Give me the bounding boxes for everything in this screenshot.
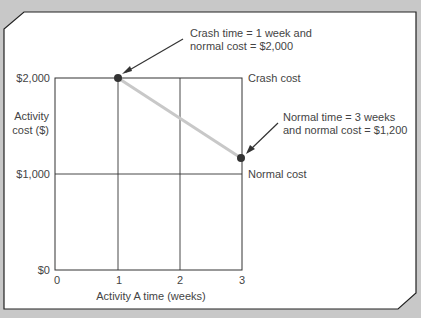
x-tick-1: 1 xyxy=(116,274,122,286)
y-axis-label-line1: Activity xyxy=(14,110,49,122)
x-tick-2: 2 xyxy=(177,274,183,286)
chart-canvas: $2,000 $1,000 $0 Activity cost ($) 0 1 2… xyxy=(0,0,421,318)
normal-annotation-line1: Normal time = 3 weeks xyxy=(283,111,396,123)
crash-annotation-line2: normal cost = $2,000 xyxy=(190,40,293,52)
crash-point xyxy=(114,74,122,82)
crash-annotation-line1: Crash time = 1 week and xyxy=(190,27,312,39)
normal-annotation-line2: and normal cost = $1,200 xyxy=(283,124,407,136)
normal-cost-label: Normal cost xyxy=(248,168,307,180)
crash-cost-label: Crash cost xyxy=(248,72,301,84)
normal-point xyxy=(237,154,245,162)
x-axis-label: Activity A time (weeks) xyxy=(96,290,205,302)
y-tick-2000: $2,000 xyxy=(16,72,50,84)
y-tick-1000: $1,000 xyxy=(16,168,50,180)
chart-panel xyxy=(4,12,416,309)
x-tick-0: 0 xyxy=(54,274,60,286)
y-axis-label-line2: cost ($) xyxy=(12,124,49,136)
y-tick-0: $0 xyxy=(38,264,50,276)
x-tick-3: 3 xyxy=(239,274,245,286)
